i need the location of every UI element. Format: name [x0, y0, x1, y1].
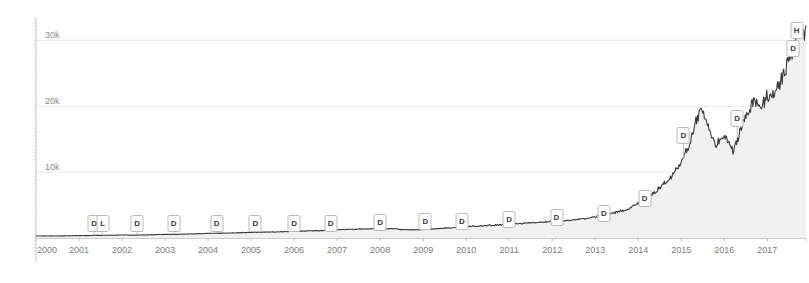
y-axis-tick-label: 20k — [45, 96, 60, 106]
dividend-marker[interactable]: D — [210, 215, 223, 232]
x-axis-tick-label: 2012 — [542, 245, 562, 255]
y-axis-tick-label: 30k — [45, 30, 60, 40]
x-axis-tick-label: 2008 — [370, 245, 390, 255]
stock-price-chart: 10k20k30k 200020012002200320042005200620… — [0, 0, 809, 283]
dividend-marker[interactable]: D — [288, 215, 301, 232]
price-area-fill — [36, 26, 806, 238]
dividend-marker[interactable]: D — [324, 215, 337, 232]
dividend-marker[interactable]: D — [374, 214, 387, 231]
dividend-marker[interactable]: D — [503, 211, 516, 228]
x-axis-tick-label: 2009 — [413, 245, 433, 255]
dividend-marker[interactable]: D — [167, 215, 180, 232]
x-axis-tick-label: 2010 — [456, 245, 476, 255]
x-axis-tick-label: 2014 — [628, 245, 648, 255]
x-axis-tick-label: 2013 — [585, 245, 605, 255]
x-axis-tick-label: 2016 — [714, 245, 734, 255]
dividend-marker[interactable]: D — [731, 110, 744, 127]
x-axis-tick-label: 2005 — [241, 245, 261, 255]
dividend-marker[interactable]: D — [419, 213, 432, 230]
dividend-marker[interactable]: D — [131, 215, 144, 232]
x-axis-tick-label: 2004 — [198, 245, 218, 255]
x-axis-tick-label: 2003 — [155, 245, 175, 255]
y-axis-tick-label: 10k — [45, 162, 60, 172]
x-axis-tick-label: 2001 — [69, 245, 89, 255]
dividend-marker[interactable]: D — [597, 205, 610, 222]
split-marker[interactable]: L — [96, 215, 109, 232]
x-axis-tick-label: 2006 — [284, 245, 304, 255]
x-axis-tick-label: 2017 — [757, 245, 777, 255]
x-axis-tick-label: 2000 — [37, 245, 57, 255]
x-axis-tick-label: 2015 — [671, 245, 691, 255]
dividend-marker[interactable]: D — [787, 40, 800, 57]
dividend-marker[interactable]: D — [249, 215, 262, 232]
high-marker[interactable]: H — [790, 22, 803, 39]
x-axis-tick-label: 2002 — [112, 245, 132, 255]
dividend-marker[interactable]: D — [677, 127, 690, 144]
x-axis-tick-label: 2007 — [327, 245, 347, 255]
x-axis-tick-label: 2011 — [499, 245, 518, 255]
dividend-marker[interactable]: D — [638, 190, 651, 207]
dividend-marker[interactable]: D — [455, 213, 468, 230]
dividend-marker[interactable]: D — [550, 209, 563, 226]
